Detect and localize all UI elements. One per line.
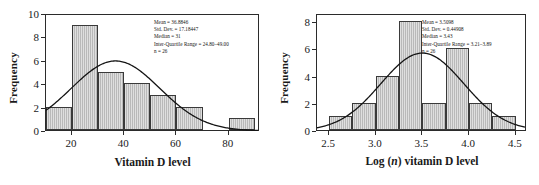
x-axis-tick (468, 131, 469, 135)
x-axis-tick (123, 131, 124, 135)
x-axis-tick (175, 131, 176, 135)
y-axis-tick (312, 22, 316, 23)
panel-vitamin-d-raw: Frequency Mean = 36.8846 Std. Dev. = 17.… (0, 0, 269, 185)
histogram-bar (150, 95, 176, 130)
x-axis-tick-label: 3.0 (368, 137, 382, 149)
histogram-bar (399, 21, 422, 130)
y-axis-tick-label: 6 (17, 55, 39, 67)
x-axis-tick (71, 131, 72, 135)
y-axis-tick (312, 49, 316, 50)
x-axis-title-left-text: Vitamin D level (114, 156, 190, 168)
x-axis-title-right: Log (n) vitamin D level (287, 155, 539, 167)
histogram-bar (422, 103, 445, 130)
x-axis-tick-label: 4.5 (508, 137, 522, 149)
stat-sd-right: Std. Dev. = 0.44908 (422, 26, 492, 33)
stat-median-right: Median = 3.43 (422, 33, 492, 40)
plot-area-left: Mean = 36.8846 Std. Dev. = 17.18447 Medi… (45, 14, 259, 131)
stat-n-right: n = 26 (422, 48, 492, 55)
histogram-bars-right (317, 15, 525, 130)
plot-area-right: Mean = 3.5098 Std. Dev. = 0.44908 Median… (316, 14, 526, 131)
histogram-figure: Frequency Mean = 36.8846 Std. Dev. = 17.… (0, 0, 539, 185)
histogram-bar (469, 103, 492, 130)
y-axis-tick (312, 77, 316, 78)
histogram-bar (446, 48, 469, 130)
y-axis-tick-label: 4 (17, 78, 39, 90)
x-axis-tick (228, 131, 229, 135)
x-axis-tick-label: 2.5 (321, 137, 335, 149)
y-axis-tick-label: 8 (17, 31, 39, 43)
y-axis-tick (41, 61, 45, 62)
x-axis-tick (421, 131, 422, 135)
y-axis-tick-label: 4 (288, 71, 310, 83)
x-axis-title-right-prefix: Log ( (365, 155, 391, 167)
histogram-bar (376, 76, 399, 130)
stat-mean-left: Mean = 36.8846 (154, 19, 229, 26)
y-axis-tick-label: 8 (288, 16, 310, 28)
x-axis-tick-label: 60 (170, 137, 181, 149)
histogram-bar (492, 116, 515, 130)
x-axis-tick (515, 131, 516, 135)
histogram-bar (176, 107, 202, 130)
x-axis-title-left: Vitamin D level (18, 156, 287, 168)
x-axis-tick-label: 4.0 (461, 137, 475, 149)
y-axis-tick (312, 104, 316, 105)
statistics-box-left: Mean = 36.8846 Std. Dev. = 17.18447 Medi… (154, 19, 229, 55)
histogram-bar (329, 116, 352, 130)
y-axis-tick (41, 108, 45, 109)
y-axis-tick (41, 14, 45, 15)
histogram-bar (98, 72, 124, 131)
histogram-bar (229, 118, 255, 130)
histogram-bar (352, 103, 375, 130)
stat-iqr-left: Inter-Quartile Range = 24.80–49.00 (154, 41, 229, 48)
x-axis-tick (328, 131, 329, 135)
y-axis-tick (312, 131, 316, 132)
y-axis-tick-label: 6 (288, 43, 310, 55)
y-axis-tick-label: 0 (288, 125, 310, 137)
y-axis-tick-label: 10 (17, 8, 39, 20)
x-axis-tick (375, 131, 376, 135)
x-axis-tick-label: 80 (222, 137, 233, 149)
panel-vitamin-d-log: Frequency Mean = 3.5098 Std. Dev. = 0.44… (269, 0, 539, 185)
stat-median-left: Median = 31 (154, 33, 229, 40)
y-axis-tick (41, 131, 45, 132)
stat-iqr-right: Inter-Quartile Range = 3.21–3.89 (422, 41, 492, 48)
x-axis-tick-label: 3.5 (415, 137, 429, 149)
y-axis-tick-label: 2 (17, 102, 39, 114)
y-axis-tick-label: 2 (288, 98, 310, 110)
histogram-bar (124, 83, 150, 130)
y-axis-tick (41, 84, 45, 85)
histogram-bar (46, 107, 72, 130)
y-axis-tick-label: 0 (17, 125, 39, 137)
y-axis-tick (41, 37, 45, 38)
x-axis-tick-label: 40 (118, 137, 129, 149)
stat-mean-right: Mean = 3.5098 (422, 19, 492, 26)
histogram-bar (72, 25, 98, 130)
stat-n-left: n = 26 (154, 48, 229, 55)
x-axis-title-right-suffix: ) vitamin D level (398, 155, 479, 167)
x-axis-tick-label: 20 (66, 137, 77, 149)
statistics-box-right: Mean = 3.5098 Std. Dev. = 0.44908 Median… (422, 19, 492, 55)
stat-sd-left: Std. Dev. = 17.18447 (154, 26, 229, 33)
